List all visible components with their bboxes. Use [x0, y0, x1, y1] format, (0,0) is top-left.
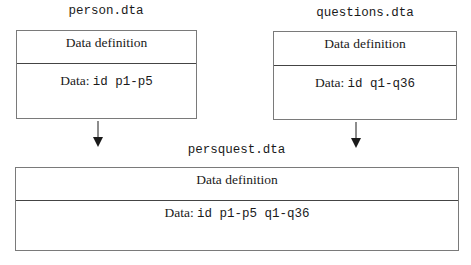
- persquest-data-section: Data: id p1-p5 q1-q36: [16, 205, 458, 221]
- questions-data-vars: id q1-q36: [348, 77, 416, 91]
- persquest-data-vars: id p1-p5 q1-q36: [197, 207, 310, 221]
- person-data-section: Data: id p1-p5: [17, 73, 196, 89]
- person-data-prefix: Data:: [60, 73, 89, 88]
- questions-filename: questions.dta: [273, 6, 457, 20]
- person-definition-label: Data definition: [66, 35, 147, 50]
- person-file-box: Data definition Data: id p1-p5: [16, 30, 197, 119]
- persquest-filename: persquest.dta: [15, 143, 458, 157]
- persquest-file-box: Data definition Data: id p1-p5 q1-q36: [15, 167, 459, 251]
- questions-data-prefix: Data:: [315, 75, 344, 90]
- questions-data-definition: Data definition: [274, 32, 456, 66]
- questions-definition-label: Data definition: [324, 36, 405, 51]
- questions-data-section: Data: id q1-q36: [274, 75, 456, 91]
- persquest-data-definition: Data definition: [16, 168, 458, 201]
- person-filename: person.dta: [16, 4, 196, 18]
- persquest-definition-label: Data definition: [196, 172, 277, 187]
- person-data-vars: id p1-p5: [93, 75, 153, 89]
- questions-file-box: Data definition Data: id q1-q36: [273, 31, 457, 120]
- persquest-data-prefix: Data:: [164, 205, 193, 220]
- person-data-definition: Data definition: [17, 31, 196, 64]
